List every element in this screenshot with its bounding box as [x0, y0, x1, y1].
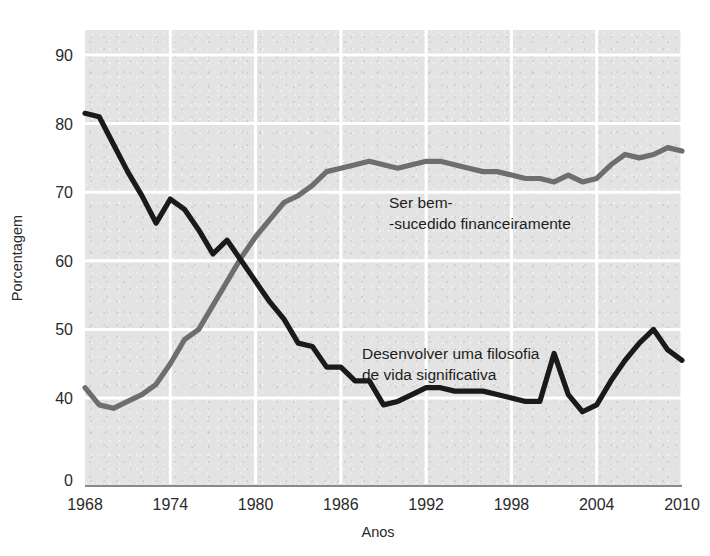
x-tick-label: 1992 [408, 496, 444, 513]
x-tick-label: 1974 [152, 496, 188, 513]
x-tick-labels-group: 19681974198019861992199820042010 [67, 496, 700, 513]
x-tick-label: 1998 [494, 496, 530, 513]
y-tick-labels-group: 9080706050400 [55, 47, 73, 489]
x-axis-title: Anos [361, 524, 394, 540]
series-label-financeiramente-line1: Ser bem- [389, 194, 453, 211]
y-tick-label: 0 [64, 472, 73, 489]
y-axis-title: Porcentagem [9, 215, 25, 301]
y-tick-label: 40 [55, 390, 73, 407]
chart-figure: 9080706050400 19681974198019861992199820… [0, 0, 710, 556]
series-label-filosofia-line2: de vida significativa [362, 366, 497, 383]
gridlines-group [85, 30, 682, 484]
x-tick-label: 2010 [664, 496, 700, 513]
y-tick-label: 90 [55, 47, 73, 64]
y-tick-label: 60 [55, 253, 73, 270]
y-tick-label: 80 [55, 116, 73, 133]
line-chart-svg: 9080706050400 19681974198019861992199820… [0, 0, 710, 556]
x-tick-label: 2004 [579, 496, 615, 513]
y-tick-label: 50 [55, 321, 73, 338]
x-tick-label: 1968 [67, 496, 103, 513]
series-label-financeiramente-line2: -sucedido financeiramente [389, 215, 571, 232]
series-label-filosofia-line1: Desenvolver uma filosofia [362, 345, 540, 362]
y-tick-label: 70 [55, 184, 73, 201]
x-tick-label: 1980 [238, 496, 274, 513]
x-tick-label: 1986 [323, 496, 359, 513]
